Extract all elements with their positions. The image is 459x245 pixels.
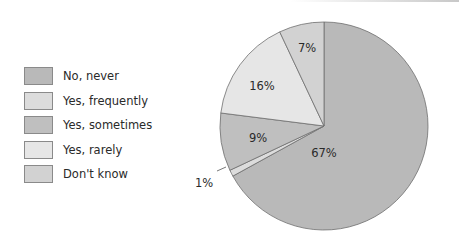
slice-label-no-never: 67% [311,146,337,160]
slice-label-yes-frequently: 1% [195,176,213,190]
leader-line-1pct [217,167,226,171]
pie-slices [220,22,428,230]
pie-chart: 67% 9% 16% 7% 1% [0,0,459,245]
slice-label-yes-sometimes: 9% [249,131,267,145]
slice-label-yes-rarely: 16% [249,79,275,93]
slice-label-dont-know: 7% [298,41,316,55]
